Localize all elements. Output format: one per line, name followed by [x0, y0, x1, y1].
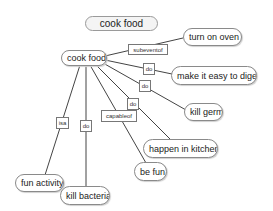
root-node[interactable]: cook food [61, 50, 107, 66]
relation-label: subeventof [128, 44, 168, 55]
node-kill-germs[interactable]: kill germs [184, 103, 223, 121]
node-make-it-easy-to-digest[interactable]: make it easy to digest [171, 66, 257, 85]
node-turn-on-oven[interactable]: turn on oven [183, 28, 242, 46]
node-be-fun[interactable]: be fun [134, 162, 167, 181]
relation-label: isa [56, 117, 69, 129]
relation-label: do [80, 120, 92, 132]
node-happen-in-kitchen[interactable]: happen in kitchen [143, 139, 218, 158]
relation-label: do [127, 98, 139, 110]
node-kill-bacteria[interactable]: kill bacteria [60, 186, 110, 205]
relation-label: do [143, 63, 155, 75]
relation-label: capableof [101, 110, 137, 122]
relation-label: do [139, 80, 151, 92]
edge-make-easy [105, 60, 172, 74]
node-fun-activity[interactable]: fun activity [15, 174, 64, 192]
diagram-title: cook food [85, 16, 158, 31]
